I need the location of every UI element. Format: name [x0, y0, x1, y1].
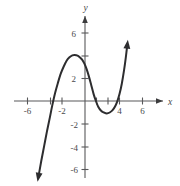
- curve-end-arrow-down-icon: [36, 172, 43, 181]
- x-tick-label-6: 6: [140, 106, 145, 116]
- x-tick-label-4: 4: [117, 106, 122, 116]
- y-tick-label-neg2: -2: [71, 120, 79, 130]
- y-tick-label-2: 2: [72, 74, 77, 84]
- y-axis-arrow-icon: [82, 16, 88, 23]
- y-axis-group: [82, 16, 88, 178]
- y-axis-label: y: [82, 3, 88, 13]
- x-axis-group: [14, 98, 163, 104]
- y-tick-label-6: 6: [72, 29, 77, 39]
- x-tick-label-neg2: -2: [58, 106, 66, 116]
- function-curve: [38, 45, 127, 177]
- curve-end-arrow-up-icon: [123, 40, 130, 49]
- y-tick-label-neg6: -6: [71, 165, 79, 175]
- x-tick-label-neg6: -6: [24, 106, 32, 116]
- x-axis-label: x: [167, 97, 173, 107]
- graph-figure: -6 -2 4 6 6 2 -2 -4 -6 x y: [0, 0, 180, 186]
- x-axis-arrow-icon: [156, 98, 163, 104]
- y-tick-label-neg4: -4: [71, 143, 79, 153]
- coordinate-plane: -6 -2 4 6 6 2 -2 -4 -6 x y: [0, 0, 180, 186]
